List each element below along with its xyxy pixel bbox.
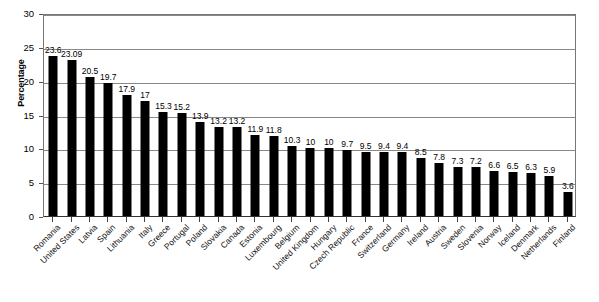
bar-value-label: 7.8 — [433, 153, 445, 162]
bar-value-label: 13.9 — [192, 112, 209, 121]
bar-group[interactable]: 6.3 — [522, 15, 540, 216]
plot-area: 23.623.0920.519.717.91715.315.213.913.21… — [43, 14, 576, 217]
bar-group[interactable]: 13.2 — [209, 15, 227, 216]
bar-group[interactable]: 19.7 — [99, 15, 117, 216]
bar[interactable] — [545, 176, 554, 216]
x-tick-mark — [401, 217, 402, 222]
bar[interactable] — [306, 148, 315, 216]
bar-group[interactable]: 23.09 — [62, 15, 80, 216]
bar-group[interactable]: 17 — [136, 15, 154, 216]
y-axis-tick-labels: 051015202530 — [0, 0, 40, 220]
x-tick-mark — [199, 217, 200, 222]
bar-group[interactable]: 23.6 — [44, 15, 62, 216]
bars-layer: 23.623.0920.519.717.91715.315.213.913.21… — [44, 15, 575, 216]
x-tick-mark — [181, 217, 182, 222]
bar-group[interactable]: 6.6 — [485, 15, 503, 216]
x-tick-mark — [162, 217, 163, 222]
bar[interactable] — [398, 152, 407, 216]
bar-value-label: 3.6 — [562, 182, 574, 191]
x-tick-mark — [365, 217, 366, 222]
x-tick-mark — [457, 217, 458, 222]
bar[interactable] — [251, 135, 260, 216]
bar-group[interactable]: 6.5 — [503, 15, 521, 216]
bar-value-label: 20.5 — [82, 67, 99, 76]
bar[interactable] — [508, 172, 517, 216]
bar[interactable] — [343, 150, 352, 216]
y-tick-label: 25 — [23, 43, 34, 53]
bar-group[interactable]: 20.5 — [81, 15, 99, 216]
x-tick-mark — [89, 217, 90, 222]
bar[interactable] — [380, 152, 389, 216]
bar[interactable] — [67, 60, 76, 216]
bar-group[interactable]: 8.5 — [412, 15, 430, 216]
y-tick-label: 30 — [23, 9, 34, 19]
bar-group[interactable]: 13.9 — [191, 15, 209, 216]
bar-group[interactable]: 7.3 — [448, 15, 466, 216]
bar-group[interactable]: 11.8 — [265, 15, 283, 216]
x-tick-label: Latvia — [77, 223, 99, 245]
bar[interactable] — [324, 148, 333, 216]
bar-group[interactable]: 9.5 — [356, 15, 374, 216]
bar-value-label: 23.09 — [61, 50, 82, 59]
x-tick-mark — [107, 217, 108, 222]
bar[interactable] — [435, 163, 444, 216]
bar-value-label: 6.3 — [525, 163, 537, 172]
bar-value-label: 8.5 — [415, 148, 427, 157]
bar[interactable] — [196, 122, 205, 216]
bar[interactable] — [471, 167, 480, 216]
bar[interactable] — [361, 152, 370, 216]
bar[interactable] — [177, 113, 186, 216]
x-tick-mark — [328, 217, 329, 222]
bar[interactable] — [490, 171, 499, 216]
bar-value-label: 6.5 — [507, 162, 519, 171]
bar[interactable] — [122, 95, 131, 216]
bar[interactable] — [232, 127, 241, 216]
bar-group[interactable]: 7.2 — [467, 15, 485, 216]
bar-group[interactable]: 11.9 — [246, 15, 264, 216]
y-tick-label: 15 — [23, 111, 34, 121]
bar-value-label: 11.8 — [266, 126, 282, 135]
bar[interactable] — [85, 77, 94, 216]
x-tick-mark — [548, 217, 549, 222]
bar-group[interactable]: 15.2 — [173, 15, 191, 216]
bar[interactable] — [49, 56, 58, 216]
x-tick-mark — [346, 217, 347, 222]
bar-group[interactable]: 9.4 — [375, 15, 393, 216]
y-tick-label: 0 — [29, 212, 34, 222]
bar-group[interactable]: 3.6 — [559, 15, 577, 216]
bar-group[interactable]: 9.7 — [338, 15, 356, 216]
bar-group[interactable]: 10 — [301, 15, 319, 216]
bar-group[interactable]: 10.3 — [283, 15, 301, 216]
x-tick-mark — [475, 217, 476, 222]
bar-group[interactable]: 17.9 — [118, 15, 136, 216]
x-tick-mark — [438, 217, 439, 222]
bar-value-label: 10.3 — [284, 136, 301, 145]
bar-value-label: 7.3 — [452, 157, 464, 166]
bar[interactable] — [269, 136, 278, 216]
bar-value-label: 13.2 — [229, 117, 246, 126]
bar-group[interactable]: 5.9 — [540, 15, 558, 216]
bar-group[interactable]: 15.3 — [154, 15, 172, 216]
bar[interactable] — [563, 192, 572, 216]
bar-chart: Percentage 051015202530 23.623.0920.519.… — [0, 0, 599, 302]
bar[interactable] — [141, 101, 150, 216]
x-tick-mark — [383, 217, 384, 222]
bar[interactable] — [453, 167, 462, 216]
bar[interactable] — [527, 173, 536, 216]
x-tick-mark — [291, 217, 292, 222]
bar[interactable] — [214, 127, 223, 216]
bar-value-label: 11.9 — [247, 125, 263, 134]
bar-group[interactable]: 13.2 — [228, 15, 246, 216]
bar-group[interactable]: 7.8 — [430, 15, 448, 216]
bar[interactable] — [416, 158, 425, 216]
bar-value-label: 15.2 — [174, 103, 191, 112]
bar-group[interactable]: 9.4 — [393, 15, 411, 216]
bar[interactable] — [159, 112, 168, 216]
bar[interactable] — [104, 83, 113, 216]
bar[interactable] — [288, 146, 297, 216]
x-axis-tick-labels: RomaniaUnited StatesLatviaSpainLithuania… — [43, 223, 576, 302]
bar-group[interactable]: 10 — [320, 15, 338, 216]
bar-value-label: 6.6 — [488, 161, 500, 170]
x-tick-mark — [567, 217, 568, 222]
x-tick-mark — [273, 217, 274, 222]
